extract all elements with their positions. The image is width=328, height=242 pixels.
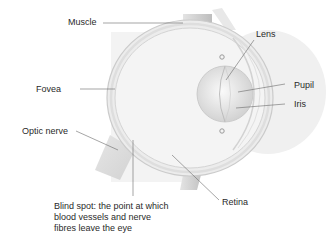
label-lens: Lens [256,29,276,40]
label-iris: Iris [294,99,306,110]
label-pupil: Pupil [294,80,314,91]
label-optic-nerve: Optic nerve [22,126,68,137]
lens-shape [197,66,253,122]
eye-diagram: Muscle Fovea Optic nerve Lens Pupil Iris… [0,0,328,242]
label-muscle: Muscle [68,17,97,28]
label-retina: Retina [222,197,248,208]
label-blind-spot: Blind spot: the point at which blood ves… [54,201,174,234]
label-fovea: Fovea [36,84,61,95]
